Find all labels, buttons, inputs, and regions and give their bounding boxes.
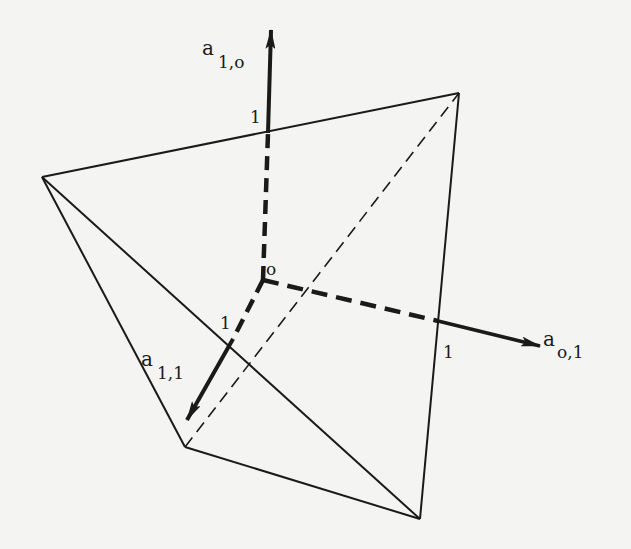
label-a01-subscript: o,1 [557,342,583,362]
axis-a01-dashed [263,280,438,321]
axis-a10-solid [268,30,271,133]
origin-label: o [266,259,276,279]
edge-topright-bottomright [420,93,459,519]
hidden-edge-bottomleft-topright [185,93,459,447]
tick-a01-unit: 1 [443,342,454,362]
edge-bottomleft-bottomright [185,447,420,519]
tick-a10-unit: 1 [250,107,261,127]
label-a10-subscript: 1,o [218,52,244,72]
axis-a11 [187,280,263,420]
label-a11-subscript: 1,1 [157,363,184,383]
label-a10-base: a [202,36,214,60]
edge-left-bottomleft [42,177,185,447]
label-a11-base: a [141,347,153,371]
axis-a11-solid [187,339,233,420]
label-a10: a 1,o [202,36,244,72]
axis-a10-dashed [263,133,268,280]
edge-left-bottomright [42,177,420,519]
axis-a11-dashed [233,280,263,339]
axis-a01 [263,280,540,346]
tick-a11-unit: 1 [220,313,231,333]
label-a01-base: a [543,327,555,351]
label-a01: a o,1 [543,327,583,362]
axis-a10 [263,30,271,280]
tetrahedron-diagram: o 1 1 1 a 1,o a o,1 a 1,1 [0,0,631,549]
edge-left-topright [42,93,459,177]
